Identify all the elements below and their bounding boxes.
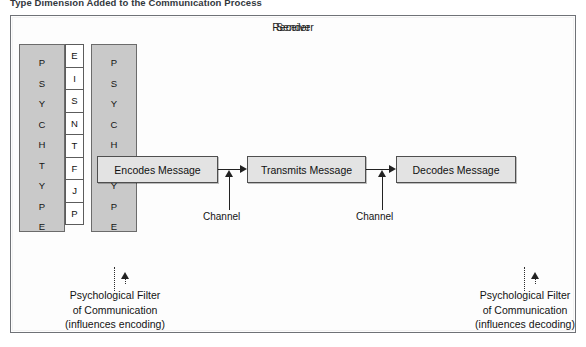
receiver-filter-caption: Psychological Filter of Communication (i… xyxy=(435,288,586,332)
channel-label-left: Channel xyxy=(203,211,240,222)
receiver-filter-caption-line3: (influences decoding) xyxy=(435,317,586,332)
arrow-right-icon xyxy=(389,165,396,173)
sender-filter-dotted-line xyxy=(114,267,115,291)
channel-right-connector xyxy=(382,176,383,210)
receiver-psych-letter: C xyxy=(111,120,118,130)
receiver-type-letter: P xyxy=(111,202,117,212)
decodes-message-box: Decodes Message xyxy=(396,156,516,183)
transmits-message-box: Transmits Message xyxy=(247,156,366,183)
sender-type-letter: P xyxy=(39,202,45,212)
sender-psych-letter: C xyxy=(39,120,46,130)
sender-type-letter: T xyxy=(39,161,45,171)
receiver-filter-caption-line1: Psychological Filter xyxy=(435,288,586,303)
receiver-psych-letter: Y xyxy=(111,99,117,109)
receiver-letter-cell: J xyxy=(65,179,84,203)
sender-type-letter: Y xyxy=(39,181,45,191)
sender-psych-letter: P xyxy=(39,58,45,68)
receiver-type-letter: E xyxy=(111,222,117,232)
receiver-filter-caption-line2: of Communication xyxy=(435,303,586,318)
arrow-up-icon xyxy=(378,170,386,177)
encodes-message-box: Encodes Message xyxy=(97,156,218,183)
arrow-up-icon xyxy=(121,272,129,279)
receiver-psych-letter: S xyxy=(111,79,117,89)
diagram-frame: Sender P S Y C H T Y P E E I S N T F J P… xyxy=(10,15,576,333)
arrow-up-icon xyxy=(225,170,233,177)
sender-psych-letter: S xyxy=(39,79,45,89)
receiver-preference-letter-column: E I S N T F J P xyxy=(65,44,84,225)
receiver-psych-letter: H xyxy=(111,140,118,150)
receiver-filter-dotted-line xyxy=(524,267,525,291)
sender-psych-letter: H xyxy=(39,140,46,150)
receiver-filter-dotted-connector xyxy=(535,279,536,284)
receiver-letter-cell: S xyxy=(65,89,84,113)
receiver-letter-cell: N xyxy=(65,112,84,136)
sender-filter-caption-line1: Psychological Filter xyxy=(25,288,205,303)
receiver-psych-type-panel: P S Y C H T Y P E xyxy=(91,44,137,232)
sender-type-letter: E xyxy=(39,222,45,232)
sender-filter-caption-line2: of Communication xyxy=(25,303,205,318)
channel-left-connector xyxy=(229,176,230,210)
receiver-letter-cell: F xyxy=(65,157,84,181)
arrow-right-icon xyxy=(240,165,247,173)
receiver-letter-cell: E xyxy=(65,44,84,68)
sender-filter-caption-line3: (influences encoding) xyxy=(25,317,205,332)
receiver-title: Receiver xyxy=(11,21,575,33)
receiver-letter-cell: T xyxy=(65,134,84,158)
sender-filter-caption: Psychological Filter of Communication (i… xyxy=(25,288,205,332)
receiver-letter-cell: I xyxy=(65,67,84,91)
receiver-psych-letter: P xyxy=(111,58,117,68)
sender-psych-type-panel: P S Y C H T Y P E xyxy=(19,44,65,232)
arrow-up-icon xyxy=(531,272,539,279)
receiver-letter-cell: P xyxy=(65,202,84,226)
channel-label-right: Channel xyxy=(356,211,393,222)
sender-filter-dotted-connector xyxy=(125,279,126,284)
figure-caption: Type Dimension Added to the Communicatio… xyxy=(10,0,262,8)
sender-psych-letter: Y xyxy=(39,99,45,109)
